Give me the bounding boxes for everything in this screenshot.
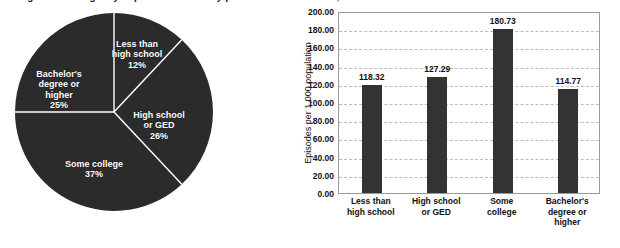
bar-value-label: 118.32 — [359, 72, 385, 82]
bar-value-label: 180.73 — [490, 16, 516, 26]
y-axis-tick-label: 180.00 — [290, 26, 334, 35]
x-axis-tick-label: Bachelor's degree or higher — [535, 196, 601, 228]
bar-slot: 118.32 — [339, 13, 405, 193]
pie-label-some-percent: 37% — [44, 169, 144, 180]
y-axis-tick-label: 140.00 — [290, 62, 334, 71]
bar[interactable] — [558, 89, 578, 193]
bar-value-label: 114.77 — [555, 76, 581, 86]
pie-label-less-percent: 12% — [104, 60, 170, 71]
pie-label-bach-percent: 25% — [20, 100, 98, 111]
x-axis-tick-label: Less than high school — [338, 196, 404, 217]
pie-chart-panel: Less than high school 12% High school or… — [0, 0, 300, 248]
pie-label-some-college: Some college 37% — [44, 148, 144, 190]
figure-container: Less than high school 12% High school or… — [0, 0, 620, 248]
pie-label-less-text: Less than high school — [112, 39, 163, 60]
bar[interactable] — [362, 85, 382, 193]
x-axis-tick-label: Some college — [469, 196, 535, 217]
x-axis-tick-label: High school or GED — [404, 196, 470, 217]
bar[interactable] — [493, 29, 513, 193]
bar-slot: 127.29 — [405, 13, 471, 193]
pie-label-hs-text: High school or GED — [133, 110, 185, 131]
bar[interactable] — [427, 77, 447, 193]
pie-label-bachelors-or-higher: Bachelor's degree or higher 25% — [20, 58, 98, 121]
bar-chart-panel: Episodes per 1,000 population 200.00180.… — [276, 0, 620, 248]
y-axis-tick-label: 40.00 — [290, 153, 334, 162]
bar-plot-area: 118.32127.29180.73114.77 — [338, 12, 600, 194]
pie-label-less-than-high-school: Less than high school 12% — [104, 28, 170, 81]
y-axis-tick-label: 160.00 — [290, 44, 334, 53]
pie-label-hs-percent: 26% — [126, 131, 192, 142]
bars-layer: 118.32127.29180.73114.77 — [339, 13, 599, 193]
y-axis-tick-label: 60.00 — [290, 135, 334, 144]
y-axis-tick-label: 20.00 — [290, 171, 334, 180]
pie-label-high-school-or-ged: High school or GED 26% — [126, 99, 192, 152]
y-axis-tick-label: 120.00 — [290, 80, 334, 89]
y-axis-tick-label: 80.00 — [290, 117, 334, 126]
pie-label-bach-text: Bachelor's degree or higher — [36, 69, 82, 100]
y-axis-tick-label: 200.00 — [290, 8, 334, 17]
pie-label-some-text: Some college — [65, 159, 123, 169]
bar-slot: 114.77 — [536, 13, 602, 193]
y-axis-tick-label: 0.00 — [290, 190, 334, 199]
bar-slot: 180.73 — [470, 13, 536, 193]
y-axis-tick-labels: 200.00180.00160.00140.00120.00100.0080.0… — [290, 12, 334, 194]
bar-value-label: 127.29 — [424, 64, 450, 74]
x-axis-tick-labels: Less than high schoolHigh school or GEDS… — [338, 196, 600, 242]
y-axis-tick-label: 100.00 — [290, 99, 334, 108]
